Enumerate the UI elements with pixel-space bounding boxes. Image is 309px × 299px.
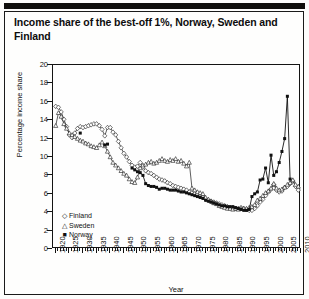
- data-point-marker: [100, 140, 104, 144]
- data-point-marker: [135, 175, 139, 179]
- data-point-marker: [182, 190, 185, 193]
- data-point-marker: [275, 170, 278, 173]
- data-point-marker: [231, 205, 234, 208]
- data-point-marker: [212, 202, 215, 205]
- data-point-marker: [215, 202, 218, 205]
- y-tick-label: 12: [26, 134, 48, 143]
- data-point-marker: [199, 196, 202, 199]
- data-point-marker: [160, 157, 164, 161]
- data-point-marker: [149, 159, 153, 163]
- data-point-marker: [204, 199, 207, 202]
- data-point-marker: [261, 178, 264, 181]
- x-tick-label: 1970: [194, 236, 203, 253]
- data-point-marker: [133, 168, 136, 171]
- data-point-marker: [286, 95, 289, 98]
- data-point-marker: [218, 203, 221, 206]
- data-point-marker: [185, 191, 188, 194]
- x-tick-label: 1945: [126, 236, 135, 253]
- data-point-marker: [187, 160, 191, 164]
- data-point-marker: [229, 205, 232, 208]
- data-point-marker: [226, 205, 229, 208]
- data-point-marker: [190, 193, 193, 196]
- legend-label: Sweden: [69, 221, 94, 231]
- data-point-marker: [240, 208, 243, 211]
- x-tick-label: 1935: [99, 236, 108, 253]
- x-tick-label: 1925: [71, 236, 80, 253]
- top-rule: [4, 3, 305, 9]
- x-tick-label: 1965: [180, 236, 189, 253]
- x-tick-label: 1995: [262, 236, 271, 253]
- x-tick-label: 1975: [208, 236, 217, 253]
- data-point-marker: [116, 139, 120, 144]
- y-tick-label: 0: [26, 244, 48, 253]
- data-point-marker: [264, 167, 267, 170]
- data-point-marker: [259, 179, 262, 182]
- data-point-marker: [242, 209, 245, 212]
- data-point-marker: [272, 174, 275, 177]
- data-point-marker: [237, 207, 240, 210]
- legend-item-finland: ◇Finland: [60, 211, 94, 221]
- data-point-marker: [210, 201, 213, 204]
- chart-figure: Income share of the best-off 1%, Norway,…: [0, 0, 309, 299]
- legend-item-sweden: △Sweden: [60, 221, 94, 231]
- data-point-marker: [105, 149, 109, 153]
- x-tick-label: 2010: [303, 236, 309, 253]
- x-tick-label: 1950: [139, 236, 148, 253]
- data-point-marker: [174, 189, 177, 192]
- data-point-marker: [201, 197, 204, 200]
- data-point-marker: [163, 187, 166, 190]
- data-point-marker: [245, 209, 248, 212]
- data-point-marker: [171, 189, 174, 192]
- x-tick-label: 1955: [153, 236, 162, 253]
- data-point-marker: [103, 144, 106, 147]
- data-point-marker: [278, 161, 281, 164]
- data-point-marker: [119, 146, 123, 151]
- data-point-marker: [270, 154, 273, 157]
- data-point-marker: [179, 158, 183, 162]
- data-point-marker: [150, 185, 153, 188]
- series-norway: [79, 95, 292, 212]
- data-point-marker: [136, 170, 139, 173]
- data-point-marker: [169, 189, 172, 192]
- chart-legend: ◇Finland△Sweden■Norway: [60, 211, 94, 240]
- x-axis-title: Year: [52, 285, 300, 294]
- x-tick-label: 2000: [276, 236, 285, 253]
- legend-marker-icon: ◇: [60, 211, 69, 221]
- data-point-marker: [180, 190, 183, 193]
- data-point-marker: [141, 174, 144, 177]
- data-point-marker: [256, 190, 259, 193]
- x-tick-label: 1960: [167, 236, 176, 253]
- y-tick-label: 18: [26, 78, 48, 87]
- data-point-marker: [289, 178, 292, 181]
- y-tick-label: 6: [26, 189, 48, 198]
- y-tick-label: 14: [26, 115, 48, 124]
- data-point-marker: [283, 137, 286, 140]
- x-tick-label: 1990: [248, 236, 257, 253]
- data-point-marker: [207, 200, 210, 203]
- y-tick-label: 4: [26, 207, 48, 216]
- data-point-marker: [155, 186, 158, 189]
- data-point-marker: [190, 186, 194, 190]
- data-point-marker: [131, 167, 134, 170]
- data-point-marker: [108, 155, 112, 159]
- data-point-marker: [253, 192, 256, 195]
- data-point-marker: [220, 204, 223, 207]
- x-axis-tick-labels: 1920192519301935194019451950195519601965…: [52, 253, 301, 285]
- y-tick-label: 10: [26, 152, 48, 161]
- data-point-marker: [111, 160, 115, 164]
- data-point-marker: [54, 124, 58, 128]
- data-point-marker: [196, 195, 199, 198]
- y-tick-label: 8: [26, 170, 48, 179]
- data-point-marker: [193, 194, 196, 197]
- data-point-marker: [144, 182, 147, 185]
- y-tick-label: 16: [26, 97, 48, 106]
- x-tick-label: 2005: [289, 236, 298, 253]
- data-point-marker: [103, 134, 107, 139]
- data-point-marker: [147, 184, 150, 187]
- data-point-marker: [139, 171, 142, 174]
- x-tick-label: 1985: [235, 236, 244, 253]
- data-point-marker: [152, 185, 155, 188]
- x-tick-label: 1920: [58, 236, 67, 253]
- data-point-marker: [166, 188, 169, 191]
- data-point-marker: [177, 190, 180, 193]
